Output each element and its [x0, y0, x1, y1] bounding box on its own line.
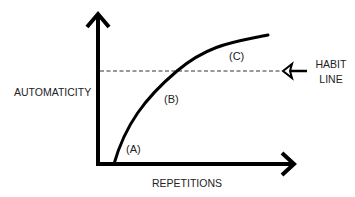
x-axis [96, 153, 294, 175]
curve-label-a: (A) [126, 143, 141, 155]
y-axis-label: AUTOMATICITY [14, 86, 91, 98]
habit-line-label-2: LINE [319, 73, 342, 85]
x-axis-label: REPETITIONS [152, 177, 222, 189]
curve-label-c: (C) [229, 50, 244, 62]
habit-line-arrow-icon [283, 64, 307, 78]
habit-curve-diagram: (A) (B) (C) AUTOMATICITY REPETITIONS HAB… [0, 0, 355, 197]
habit-line-label-1: HABIT [316, 58, 348, 70]
curve-label-b: (B) [164, 93, 179, 105]
